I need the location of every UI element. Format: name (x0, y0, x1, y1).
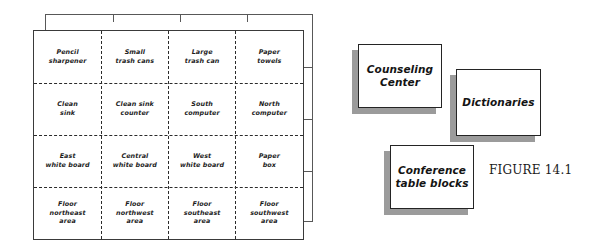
grid-cell-r2c2: West white board (169, 135, 236, 187)
back-sheet-tick-top-3 (247, 15, 248, 22)
grid-sheet-stack: Pencil sharpener Small trash cans Large … (27, 14, 319, 242)
grid-cell-r0c1: Small trash cans (101, 31, 168, 83)
back-sheet-tick-top-2 (180, 15, 181, 22)
back-sheet-tick-right-1 (304, 67, 312, 68)
inventory-grid: Pencil sharpener Small trash cans Large … (34, 31, 303, 239)
grid-cell-r2c3: Paper box (236, 135, 303, 187)
grid-cell-label: Floor northeast area (50, 200, 86, 226)
grid-cell-label: Central white board (113, 152, 157, 169)
grid-cell-label: South computer (184, 100, 219, 117)
grid-cell-label: Floor southeast area (184, 200, 221, 226)
grid-cell-label: Floor southwest area (250, 200, 288, 226)
card-label: Conference table blocks (396, 164, 469, 191)
grid-cell-r0c3: Paper towels (236, 31, 303, 83)
back-sheet-tick-top-1 (113, 15, 114, 22)
card-label: Dictionaries (462, 96, 534, 110)
grid-cell-label: West white board (180, 152, 224, 169)
dictionaries-card: Dictionaries (456, 69, 541, 136)
grid-cell-label: Clean sink (57, 100, 78, 117)
grid-cell-r3c0: Floor northeast area (34, 187, 101, 239)
counseling-center-card: Counseling Center (358, 44, 442, 108)
grid-cell-r3c1: Floor northwest area (101, 187, 168, 239)
figure-14-1: Pencil sharpener Small trash cans Large … (0, 0, 589, 252)
grid-cell-label: North computer (252, 100, 287, 117)
grid-cell-label: East white board (45, 152, 89, 169)
grid-cell-label: Paper box (259, 152, 280, 169)
card-label: Counseling Center (367, 63, 433, 90)
grid-cell-r0c0: Pencil sharpener (34, 31, 101, 83)
grid-cell-r2c0: East white board (34, 135, 101, 187)
grid-cell-r1c3: North computer (236, 83, 303, 135)
grid-cell-r0c2: Large trash can (169, 31, 236, 83)
grid-cell-label: Paper towels (257, 48, 281, 65)
conference-table-blocks-card: Conference table blocks (390, 145, 474, 209)
grid-cell-r3c2: Floor southeast area (169, 187, 236, 239)
back-sheet-tick-right-2 (304, 119, 312, 120)
grid-cell-r2c1: Central white board (101, 135, 168, 187)
grid-cell-label: Large trash can (185, 48, 220, 65)
grid-cell-r3c3: Floor southwest area (236, 187, 303, 239)
grid-cell-r1c1: Clean sink counter (101, 83, 168, 135)
grid-cell-r1c0: Clean sink (34, 83, 101, 135)
grid-cell-label: Small trash cans (116, 48, 155, 65)
grid-cell-label: Floor northwest area (116, 200, 154, 226)
grid-cell-label: Pencil sharpener (49, 48, 87, 65)
figure-caption: FIGURE 14.1 (489, 163, 572, 177)
grid-cell-r1c2: South computer (169, 83, 236, 135)
front-sheet: Pencil sharpener Small trash cans Large … (33, 30, 304, 240)
grid-cell-label: Clean sink counter (116, 100, 154, 117)
back-sheet-tick-right-3 (304, 171, 312, 172)
